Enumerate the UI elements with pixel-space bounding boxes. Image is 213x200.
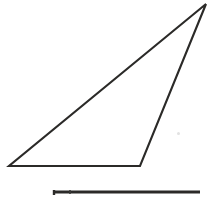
figure-background: [0, 0, 213, 200]
paper-speck-artifact: [177, 132, 180, 135]
figure-canvas: [0, 0, 213, 200]
line-drawing-svg: [0, 0, 213, 200]
